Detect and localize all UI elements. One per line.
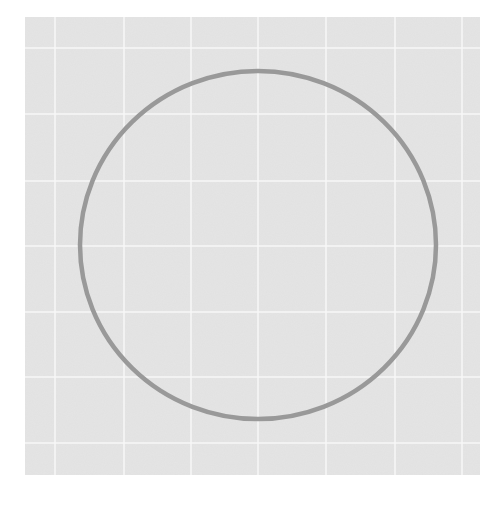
- diagram-canvas: [0, 0, 492, 506]
- circle-diagram: [0, 0, 492, 506]
